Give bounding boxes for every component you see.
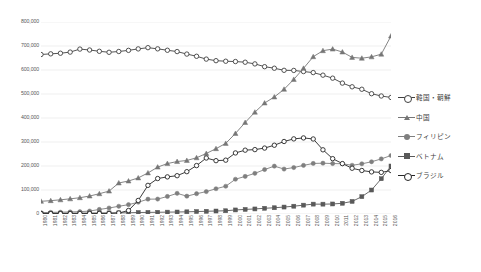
x-axis-tick-label: 2009: [325, 215, 330, 226]
data-point-marker: [175, 191, 179, 195]
x-axis-tick-label: 2005: [286, 215, 291, 226]
legend-item-2[interactable]: 中国: [398, 108, 481, 128]
data-point-marker: [165, 194, 169, 198]
x-axis-tick-label: 2003: [267, 215, 272, 226]
legend-item-4[interactable]: ベトナム: [398, 147, 481, 167]
x-axis-tick-label: 2004: [276, 215, 281, 226]
data-point-marker: [301, 136, 305, 140]
data-point-marker: [321, 202, 325, 206]
data-point-marker: [175, 210, 179, 214]
data-point-marker: [97, 211, 101, 214]
legend-label: ベトナム: [416, 153, 444, 160]
data-point-marker: [233, 208, 237, 212]
x-axis-tick-label: 1993: [169, 215, 174, 226]
data-point-marker: [282, 68, 286, 72]
series-canvas: [41, 22, 391, 214]
data-point-marker: [243, 60, 247, 64]
legend-marker-icon: [398, 132, 415, 141]
data-point-marker: [58, 51, 62, 55]
data-point-marker: [389, 95, 391, 99]
data-point-marker: [311, 137, 315, 141]
legend-item-5[interactable]: ブラジル: [398, 166, 481, 186]
data-point-marker: [165, 48, 169, 52]
data-point-marker: [370, 188, 374, 192]
data-point-marker: [263, 167, 267, 171]
data-point-marker: [262, 146, 266, 150]
data-point-marker: [311, 161, 315, 165]
data-point-marker: [233, 59, 237, 63]
x-axis-tick-label: 2016: [393, 215, 398, 226]
data-point-marker: [292, 68, 296, 72]
data-point-marker: [136, 198, 140, 202]
data-point-marker: [282, 205, 286, 209]
x-axis-tick-label: 2014: [374, 215, 379, 226]
x-axis-tick-label: 2012: [354, 215, 359, 226]
data-point-marker: [41, 52, 43, 56]
legend-label: 韓国・朝鮮: [416, 94, 451, 101]
data-point-marker: [136, 211, 140, 214]
data-point-marker: [263, 206, 267, 210]
x-axis-tick-label: 1989: [131, 215, 136, 226]
data-point-marker: [165, 210, 169, 214]
data-point-marker: [185, 210, 189, 214]
y-axis-tick-label: 800,000: [0, 19, 39, 24]
data-point-marker: [58, 211, 62, 214]
plot-area: [41, 22, 391, 214]
chart-legend: 韓国・朝鮮中国フィリピンベトナムブラジル: [398, 88, 481, 186]
data-point-marker: [243, 207, 247, 211]
series-line: [41, 156, 391, 213]
data-point-marker: [331, 161, 335, 165]
data-point-marker: [146, 210, 150, 214]
data-point-marker: [224, 59, 228, 63]
data-point-marker: [117, 204, 121, 208]
data-point-marker: [117, 211, 121, 214]
data-point-marker: [107, 50, 111, 54]
data-point-marker: [145, 170, 150, 175]
x-axis-tick-label: 1981: [53, 215, 58, 226]
data-point-marker: [311, 70, 315, 74]
data-point-marker: [340, 161, 344, 165]
data-point-marker: [146, 197, 150, 201]
data-point-marker: [369, 160, 373, 164]
x-axis-tick-label: 2006: [296, 215, 301, 226]
data-point-marker: [155, 176, 159, 180]
legend-marker-icon: [398, 152, 415, 161]
x-axis-tick-label: 1997: [208, 215, 213, 226]
data-point-marker: [194, 163, 198, 167]
data-point-marker: [195, 210, 199, 214]
line-chart: 0100,000200,000300,000400,000500,000600,…: [0, 0, 481, 272]
data-point-marker: [204, 156, 208, 160]
x-axis-tick-label: 1984: [82, 215, 87, 226]
data-point-marker: [49, 211, 53, 214]
x-axis-tick-label: 2011: [344, 215, 349, 226]
y-axis-tick-label: 700,000: [0, 43, 39, 48]
data-point-marker: [262, 101, 267, 106]
data-point-marker: [214, 146, 219, 151]
data-point-marker: [272, 206, 276, 210]
data-point-marker: [311, 202, 315, 206]
legend-item-1[interactable]: 韓国・朝鮮: [398, 88, 481, 108]
y-axis-tick-label: 500,000: [0, 91, 39, 96]
data-point-marker: [107, 211, 111, 214]
data-point-marker: [379, 177, 383, 181]
x-axis-tick-label: 1999: [228, 215, 233, 226]
data-point-marker: [233, 151, 237, 155]
data-point-marker: [214, 209, 218, 213]
data-point-marker: [243, 174, 247, 178]
data-point-marker: [321, 73, 325, 77]
x-axis-tick-label: 1995: [189, 215, 194, 226]
x-axis: 1980198119821983198419851986198719881989…: [41, 215, 391, 255]
data-point-marker: [117, 49, 121, 53]
data-point-marker: [360, 162, 364, 166]
x-axis-tick-label: 1980: [43, 215, 48, 226]
data-point-marker: [146, 45, 150, 49]
x-axis-tick-label: 1988: [121, 215, 126, 226]
x-axis-tick-label: 1986: [101, 215, 106, 226]
data-point-marker: [360, 195, 364, 199]
data-point-marker: [204, 57, 208, 61]
data-point-marker: [292, 204, 296, 208]
y-axis-tick-label: 100,000: [0, 187, 39, 192]
legend-item-3[interactable]: フィリピン: [398, 127, 481, 147]
x-axis-tick-label: 1998: [218, 215, 223, 226]
data-point-marker: [78, 47, 82, 51]
